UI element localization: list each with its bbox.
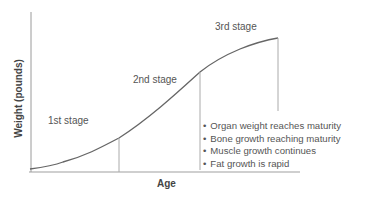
y-axis-label: Weight (pounds): [13, 59, 24, 139]
note-item: Fat growth is rapid: [203, 158, 341, 171]
stage3-label: 3rd stage: [215, 21, 257, 32]
stage2-label: 2nd stage: [133, 74, 177, 85]
stage1-label: 1st stage: [48, 115, 89, 126]
stage3-notes: Organ weight reaches maturity Bone growt…: [203, 120, 341, 170]
note-item: Muscle growth continues: [203, 145, 341, 158]
note-item: Bone growth reaching maturity: [203, 133, 341, 146]
x-axis-label: Age: [157, 178, 176, 189]
note-item: Organ weight reaches maturity: [203, 120, 341, 133]
